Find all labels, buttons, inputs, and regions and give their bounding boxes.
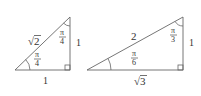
angle-arc-bottom xyxy=(26,59,30,70)
angle-arc-bottom xyxy=(108,58,111,70)
vertical-side-label: 1 xyxy=(189,37,194,48)
hypotenuse-label: 2 xyxy=(131,30,137,42)
angle-arc-top xyxy=(175,21,183,26)
triangle-45-45-90: √ 2 1 1 π 4 π 4 xyxy=(15,17,81,86)
angle-top-numerator: π xyxy=(60,28,64,37)
right-angle-marker xyxy=(65,65,70,70)
angle-top-numerator: π xyxy=(171,26,175,35)
angle-bottom-denominator: 6 xyxy=(132,58,136,67)
angle-arc-top xyxy=(64,23,70,26)
horizontal-side-label: 1 xyxy=(43,75,48,86)
hypotenuse-label: 2 xyxy=(34,35,40,47)
horizontal-side-label: 3 xyxy=(140,75,146,87)
right-angle-marker xyxy=(178,65,183,70)
angle-top-denominator: 3 xyxy=(171,35,175,44)
angle-bottom-denominator: 4 xyxy=(35,59,39,68)
vertical-side-label: 1 xyxy=(76,37,81,48)
triangle-30-60-90: 2 1 √ 3 π 6 π 3 xyxy=(87,17,194,87)
angle-bottom-numerator: π xyxy=(35,50,39,59)
angle-top-denominator: 4 xyxy=(60,37,64,46)
special-triangles-diagram: √ 2 1 1 π 4 π 4 2 1 √ 3 π 6 π 3 xyxy=(0,0,201,96)
angle-bottom-numerator: π xyxy=(132,49,136,58)
